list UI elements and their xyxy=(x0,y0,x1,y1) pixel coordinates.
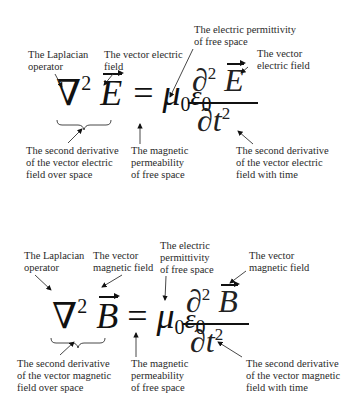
annotation-arrows xyxy=(0,0,362,200)
magnetic-wave-equation-diagram: The Laplacian operator The vector magnet… xyxy=(0,220,362,415)
annotation-arrows xyxy=(0,220,362,415)
electric-wave-equation-diagram: The Laplacian operator The vector electr… xyxy=(0,0,362,200)
